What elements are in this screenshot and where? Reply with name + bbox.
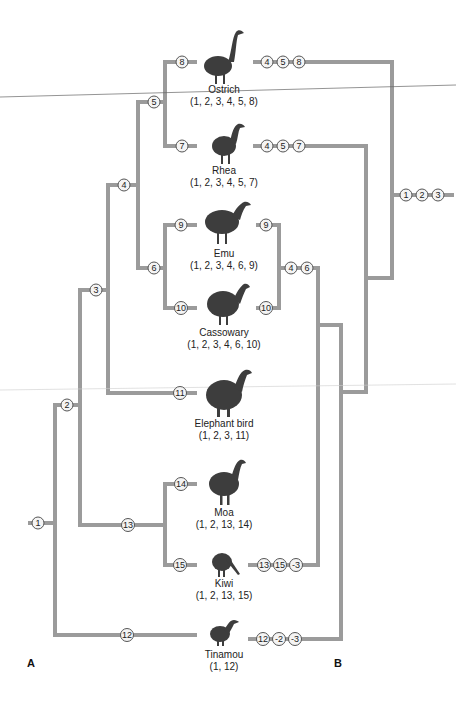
svg-text:14: 14 bbox=[176, 479, 186, 489]
svg-text:10: 10 bbox=[176, 303, 186, 313]
elephant-bird-silhouette-icon bbox=[206, 370, 252, 417]
svg-text:5: 5 bbox=[151, 97, 156, 107]
svg-text:1: 1 bbox=[35, 518, 40, 528]
ostrich-node-8: 8 bbox=[293, 56, 305, 68]
svg-text:12: 12 bbox=[122, 630, 132, 640]
svg-text:13: 13 bbox=[259, 560, 269, 570]
node-12: 12 bbox=[121, 629, 134, 642]
svg-text:7: 7 bbox=[296, 141, 301, 151]
svg-text:3: 3 bbox=[435, 190, 440, 200]
svg-text:-3: -3 bbox=[291, 634, 299, 644]
emu-cassowary-node-6: 6 bbox=[301, 262, 313, 274]
root-node-3: 3 bbox=[432, 189, 444, 201]
node-15: 15 bbox=[174, 559, 187, 572]
taxon-ostrich: Ostrich (1, 2, 3, 4, 5, 8) bbox=[164, 84, 284, 108]
cassowary-node-10: 10 bbox=[260, 302, 273, 315]
kiwi-silhouette-icon bbox=[212, 553, 240, 577]
node-6: 6 bbox=[148, 262, 160, 274]
svg-text:5: 5 bbox=[280, 57, 285, 67]
svg-text:9: 9 bbox=[263, 220, 268, 230]
svg-text:8: 8 bbox=[179, 57, 184, 67]
rhea-node-4: 4 bbox=[261, 140, 273, 152]
kiwi-node-13: 13 bbox=[258, 559, 271, 572]
svg-text:5: 5 bbox=[280, 141, 285, 151]
taxon-characters: (1, 2, 3, 4, 6, 9) bbox=[164, 260, 284, 272]
node-7: 7 bbox=[176, 140, 188, 152]
svg-text:4: 4 bbox=[264, 141, 269, 151]
rhea-node-5: 5 bbox=[277, 140, 289, 152]
svg-text:6: 6 bbox=[151, 263, 156, 273]
node-10: 10 bbox=[175, 302, 188, 315]
taxon-characters: (1, 12) bbox=[164, 661, 284, 673]
taxon-name: Moa bbox=[164, 507, 284, 519]
svg-text:12: 12 bbox=[258, 634, 268, 644]
tinamou-node-neg3: -3 bbox=[289, 633, 302, 646]
cassowary-silhouette-icon bbox=[207, 284, 250, 325]
root-node-2: 2 bbox=[416, 189, 428, 201]
node-4: 4 bbox=[118, 179, 130, 191]
taxon-rhea: Rhea (1, 2, 3, 4, 5, 7) bbox=[164, 165, 284, 189]
taxon-name: Elephant bird bbox=[164, 418, 284, 430]
taxon-elephant-bird: Elephant bird (1, 2, 3, 11) bbox=[164, 418, 284, 442]
svg-text:2: 2 bbox=[419, 190, 424, 200]
emu-node-9: 9 bbox=[260, 219, 272, 231]
taxon-characters: (1, 2, 13, 15) bbox=[164, 590, 284, 602]
taxon-characters: (1, 2, 3, 4, 5, 7) bbox=[164, 177, 284, 189]
svg-text:8: 8 bbox=[296, 57, 301, 67]
svg-text:15: 15 bbox=[175, 560, 185, 570]
tinamou-node-neg2: -2 bbox=[273, 633, 286, 646]
taxon-tinamou: Tinamou (1, 12) bbox=[164, 649, 284, 673]
svg-text:3: 3 bbox=[93, 285, 98, 295]
svg-text:15: 15 bbox=[275, 560, 285, 570]
svg-text:11: 11 bbox=[175, 388, 184, 398]
node-3: 3 bbox=[90, 284, 102, 296]
kiwi-node-15: 15 bbox=[274, 559, 287, 572]
ostrich-node-4: 4 bbox=[261, 56, 273, 68]
taxon-characters: (1, 2, 3, 4, 5, 8) bbox=[164, 96, 284, 108]
emu-silhouette-icon bbox=[205, 202, 251, 244]
node-14: 14 bbox=[175, 478, 188, 491]
tinamou-node-12: 12 bbox=[257, 633, 270, 646]
emu-cassowary-node-4: 4 bbox=[285, 262, 297, 274]
svg-text:2: 2 bbox=[64, 400, 69, 410]
taxon-name: Kiwi bbox=[164, 578, 284, 590]
taxon-moa: Moa (1, 2, 13, 14) bbox=[164, 507, 284, 531]
node-11: 11 bbox=[174, 387, 187, 400]
tinamou-silhouette-icon bbox=[210, 620, 239, 646]
panel-label-b: B bbox=[334, 657, 342, 669]
svg-text:1: 1 bbox=[403, 190, 408, 200]
taxon-name: Tinamou bbox=[164, 649, 284, 661]
svg-text:10: 10 bbox=[261, 303, 271, 313]
taxon-name: Cassowary bbox=[164, 327, 284, 339]
taxon-characters: (1, 2, 3, 11) bbox=[164, 430, 284, 442]
panel-label-a: A bbox=[27, 657, 35, 669]
taxon-name: Emu bbox=[164, 248, 284, 260]
node-5: 5 bbox=[148, 96, 160, 108]
svg-text:13: 13 bbox=[123, 520, 133, 530]
node-8: 8 bbox=[176, 56, 188, 68]
node-2: 2 bbox=[61, 399, 73, 411]
taxon-characters: (1, 2, 13, 14) bbox=[164, 519, 284, 531]
node-1: 1 bbox=[32, 517, 44, 529]
kiwi-node-neg3: -3 bbox=[290, 559, 303, 572]
svg-text:6: 6 bbox=[304, 263, 309, 273]
taxon-cassowary: Cassowary (1, 2, 3, 4, 6, 10) bbox=[164, 327, 284, 351]
svg-text:4: 4 bbox=[121, 180, 126, 190]
rhea-silhouette-icon bbox=[212, 124, 245, 164]
root-node-1: 1 bbox=[400, 189, 412, 201]
taxon-name: Ostrich bbox=[164, 84, 284, 96]
moa-silhouette-icon bbox=[209, 460, 246, 505]
svg-text:4: 4 bbox=[288, 263, 293, 273]
rhea-node-7: 7 bbox=[293, 140, 305, 152]
taxon-characters: (1, 2, 3, 4, 6, 10) bbox=[164, 339, 284, 351]
taxon-name: Rhea bbox=[164, 165, 284, 177]
svg-text:7: 7 bbox=[179, 141, 184, 151]
node-9: 9 bbox=[175, 219, 187, 231]
taxon-kiwi: Kiwi (1, 2, 13, 15) bbox=[164, 578, 284, 602]
svg-text:9: 9 bbox=[178, 220, 183, 230]
svg-text:-2: -2 bbox=[275, 634, 283, 644]
taxon-emu: Emu (1, 2, 3, 4, 6, 9) bbox=[164, 248, 284, 272]
ostrich-silhouette-icon bbox=[204, 30, 244, 84]
node-13: 13 bbox=[122, 519, 135, 532]
ostrich-node-5: 5 bbox=[277, 56, 289, 68]
